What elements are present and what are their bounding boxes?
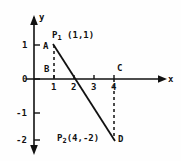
- x-tick-label-4: 4: [111, 83, 116, 92]
- math-figure: y x 1 0 -1 -2 1 2 3 4 A B C D P1 (1,1) P…: [0, 0, 181, 161]
- annotation-p2: P2(4,-2): [57, 134, 99, 145]
- x-axis-label: x: [168, 75, 173, 84]
- x-tick-label-1: 1: [51, 83, 56, 92]
- x-tick-label-3: 3: [91, 83, 96, 92]
- y-axis-label: y: [39, 13, 44, 22]
- y-axis-up-arrow-icon: [30, 15, 38, 25]
- x-axis-arrow-icon: [158, 75, 167, 83]
- point-label-b: B: [44, 65, 49, 74]
- point-label-d: D: [118, 135, 123, 144]
- annotation-p1-coords: (1,1): [67, 30, 94, 40]
- y-tick-label-0: 0: [22, 75, 27, 84]
- x-tick-label-2: 2: [71, 83, 76, 92]
- annotation-p2-coords: (4,-2): [67, 133, 100, 143]
- annotation-p1-subscript: 1: [57, 34, 61, 42]
- y-tick-label-1: 1: [22, 41, 27, 50]
- y-axis-down-arrow-icon: [30, 145, 38, 155]
- y-tick-label-neg1: -1: [16, 109, 27, 118]
- y-tick-label-neg2: -2: [16, 136, 27, 145]
- solid-segment-p1-p2: [53, 44, 115, 141]
- point-label-c: C: [117, 64, 122, 73]
- annotation-p1: P1 (1,1): [52, 31, 94, 42]
- point-label-a: A: [43, 42, 48, 51]
